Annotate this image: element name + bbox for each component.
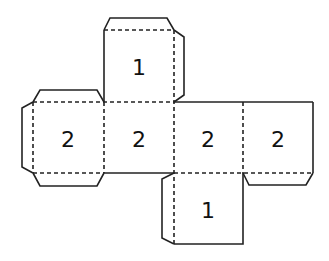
left-face-top-tab: [33, 90, 104, 102]
cube-net-svg: 1 2 2 2 2 1: [0, 0, 329, 261]
bottom-face-left-tab: [162, 173, 174, 244]
face-label-row-4: 2: [271, 127, 285, 152]
top-face-right-tab: [174, 30, 184, 102]
right-face-bottom-tab: [243, 173, 313, 185]
top-face-top-tab: [104, 18, 174, 30]
left-face-bottom-tab: [33, 173, 104, 186]
face-label-row-2: 2: [132, 127, 146, 152]
cube-net-diagram: 1 2 2 2 2 1: [0, 0, 329, 261]
left-face-left-tab: [22, 102, 33, 173]
face-label-row-3: 2: [201, 127, 215, 152]
face-label-bottom: 1: [201, 198, 215, 223]
face-label-top: 1: [132, 55, 146, 80]
face-label-row-1: 2: [61, 127, 75, 152]
